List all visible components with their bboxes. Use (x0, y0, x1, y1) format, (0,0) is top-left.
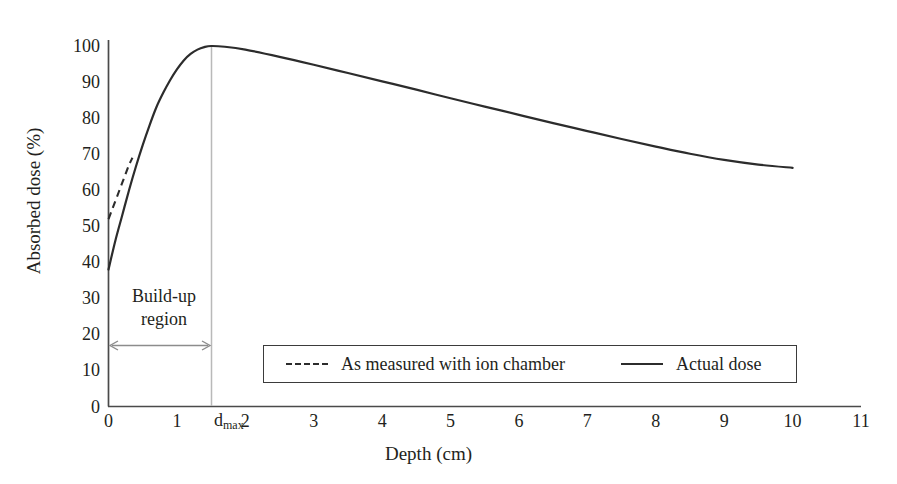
x-tick-label-0: 0 (89, 412, 129, 430)
x-tick-label-7: 7 (567, 412, 607, 430)
x-tick-label-3: 3 (294, 412, 334, 430)
buildup-region-label: Build-up region (112, 285, 216, 331)
x-tick-label-1: 1 (157, 412, 197, 430)
buildup-label-line1: Build-up (112, 285, 216, 308)
dmax-letter: d (214, 410, 223, 430)
legend-label-ion-chamber: As measured with ion chamber (341, 354, 565, 375)
x-axis-tick-labels: 01234567891011 (0, 412, 897, 438)
legend-row: As measured with ion chamber Actual dose (264, 346, 796, 382)
dashed-line-swatch-icon (286, 363, 328, 365)
x-tick-label-5: 5 (431, 412, 471, 430)
x-tick-label-4: 4 (362, 412, 402, 430)
x-tick-label-10: 10 (773, 412, 813, 430)
legend-box: As measured with ion chamber Actual dose (263, 345, 797, 383)
dmax-subscript: max (223, 418, 244, 432)
x-tick-label-9: 9 (704, 412, 744, 430)
legend-item-ion-chamber: As measured with ion chamber (286, 354, 565, 375)
x-axis-title: Depth (cm) (385, 443, 472, 464)
legend-item-actual-dose: Actual dose (621, 354, 761, 375)
buildup-label-line2: region (112, 308, 216, 331)
dmax-tick-label: dmax (214, 410, 244, 431)
solid-line-swatch-icon (621, 363, 663, 365)
chart-figure: Absorbed dose (%) 1009080706050403020100… (0, 0, 897, 484)
x-tick-label-8: 8 (636, 412, 676, 430)
x-tick-label-6: 6 (499, 412, 539, 430)
legend-label-actual-dose: Actual dose (676, 354, 761, 375)
x-tick-label-11: 11 (841, 412, 881, 430)
x-axis-title-container: Depth (cm) (0, 443, 897, 465)
buildup-region-arrow (110, 341, 210, 350)
